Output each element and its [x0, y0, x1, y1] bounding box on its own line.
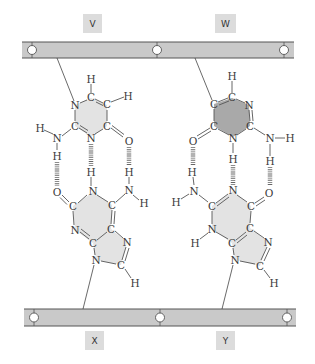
atom-c: C: [228, 91, 236, 103]
label-y: Y: [216, 331, 235, 350]
atom-n: N: [244, 99, 253, 111]
atom-h: H: [265, 155, 274, 167]
atom-n: N: [207, 223, 216, 235]
right-top-base: H C C N C C N O H N H H: [189, 70, 295, 167]
atom-h: H: [124, 166, 133, 178]
atom-h: H: [190, 237, 199, 249]
atom-c: C: [210, 98, 218, 110]
atom-c: C: [210, 120, 218, 132]
top-backbone: [22, 42, 294, 58]
atom-c: C: [71, 120, 79, 132]
atom-h: H: [171, 196, 180, 208]
atom-n: N: [70, 99, 79, 111]
label-v: V: [83, 14, 102, 33]
atom-h: H: [123, 90, 132, 102]
atom-h: H: [130, 277, 139, 289]
atom-c: C: [87, 91, 95, 103]
atom-h: H: [187, 166, 196, 178]
atom-n: N: [124, 184, 133, 196]
svg-text:W: W: [221, 19, 230, 29]
atom-c: C: [208, 200, 216, 212]
svg-text:V: V: [89, 19, 96, 29]
atom-n: N: [70, 224, 79, 236]
svg-text:Y: Y: [222, 336, 229, 346]
tether-v: [57, 58, 74, 101]
atom-n: N: [52, 132, 61, 144]
atom-c: C: [103, 98, 111, 110]
atom-h: H: [285, 132, 294, 144]
tether-x: [83, 265, 94, 309]
atom-h: H: [35, 122, 44, 134]
atom-n: N: [88, 185, 97, 197]
tether-w: [195, 58, 212, 100]
left-bottom-base: H H O N N H C C N C C N N C H: [53, 166, 149, 289]
atom-n: N: [228, 132, 237, 144]
atom-c: C: [228, 237, 236, 249]
atom-n: N: [91, 254, 100, 266]
tether-y: [222, 265, 233, 309]
label-w: W: [215, 14, 236, 33]
label-x: X: [85, 331, 104, 350]
atom-h: H: [269, 277, 278, 289]
atom-h: H: [227, 70, 236, 82]
svg-text:X: X: [91, 336, 97, 346]
right-bottom-base: H N H N O C C N H C C N N C H: [171, 166, 278, 289]
atom-c: C: [107, 223, 115, 235]
atom-o: O: [265, 187, 274, 199]
atom-c: C: [246, 120, 254, 132]
atom-o: O: [53, 186, 62, 198]
atom-h: H: [139, 197, 148, 209]
atom-c: C: [117, 259, 125, 271]
atom-h: H: [86, 73, 95, 85]
atom-n: N: [86, 132, 95, 144]
atom-c: C: [69, 200, 77, 212]
atom-c: C: [246, 222, 254, 234]
atom-c: C: [89, 237, 97, 249]
atom-n: N: [189, 185, 198, 197]
atom-n: N: [263, 236, 272, 248]
atom-h: H: [52, 150, 61, 162]
bottom-backbone: [24, 309, 296, 326]
atom-o: O: [125, 135, 134, 147]
atom-n: N: [122, 236, 131, 248]
atom-h: H: [228, 153, 237, 165]
atom-n: N: [228, 184, 237, 196]
atom-c: C: [108, 199, 116, 211]
base-pair-diagram: V W X Y: [0, 0, 315, 364]
left-hydrogen-bonds: [57, 144, 129, 186]
atom-c: C: [256, 260, 264, 272]
atom-c: C: [103, 120, 111, 132]
atom-h: H: [86, 166, 95, 178]
atom-c: C: [247, 200, 255, 212]
left-top-base: H C C H N C C N O N H H: [35, 73, 133, 162]
atom-o: O: [189, 135, 198, 147]
atom-n: N: [230, 254, 239, 266]
atom-n: N: [265, 132, 274, 144]
